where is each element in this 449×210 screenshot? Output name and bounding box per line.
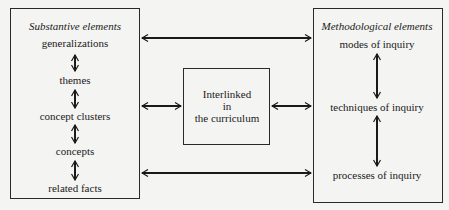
arrows-layer (0, 0, 449, 210)
